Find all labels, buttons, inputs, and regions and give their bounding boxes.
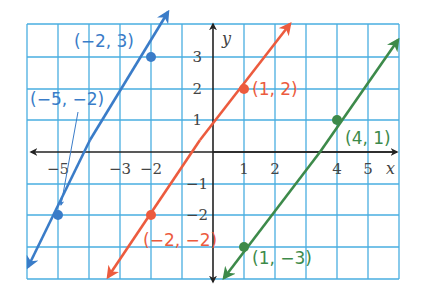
svg-text:4: 4 <box>332 160 342 178</box>
y-axis-label: y <box>221 29 232 48</box>
blue-line: (−2, 3) (−5, −2) <box>28 12 168 267</box>
svg-text:−1: −1 <box>186 175 208 193</box>
label-neg2-3: (−2, 3) <box>74 31 134 51</box>
label-neg2-neg2: (−2, −2) <box>143 230 217 250</box>
label-4-1: (4, 1) <box>345 128 391 148</box>
svg-text:−3: −3 <box>109 160 131 178</box>
point-4-1 <box>332 115 342 125</box>
label-1-neg3: (1, −3) <box>252 248 312 268</box>
svg-text:2: 2 <box>192 80 202 98</box>
svg-text:2: 2 <box>270 160 280 178</box>
coordinate-plane-chart: y x −5 −3 −2 1 2 4 5 3 2 1 −1 −2 (−2, 3)… <box>0 0 421 293</box>
svg-text:−2: −2 <box>186 206 208 224</box>
svg-text:1: 1 <box>192 111 202 129</box>
point-neg2-3 <box>146 52 156 62</box>
svg-text:5: 5 <box>363 160 373 178</box>
point-neg5-neg2 <box>53 210 63 220</box>
svg-text:1: 1 <box>239 160 249 178</box>
x-axis-label: x <box>386 159 395 178</box>
point-neg2-neg2 <box>146 210 156 220</box>
x-tick-labels: −5 −3 −2 1 2 4 5 <box>47 160 373 178</box>
label-1-2: (1, 2) <box>252 79 298 99</box>
svg-text:−5: −5 <box>47 160 69 178</box>
point-1-2 <box>239 84 249 94</box>
point-1-neg3 <box>239 242 249 252</box>
svg-text:3: 3 <box>192 48 202 66</box>
leader-line <box>61 112 78 205</box>
svg-text:−2: −2 <box>140 160 162 178</box>
label-neg5-neg2: (−5, −2) <box>30 89 104 109</box>
